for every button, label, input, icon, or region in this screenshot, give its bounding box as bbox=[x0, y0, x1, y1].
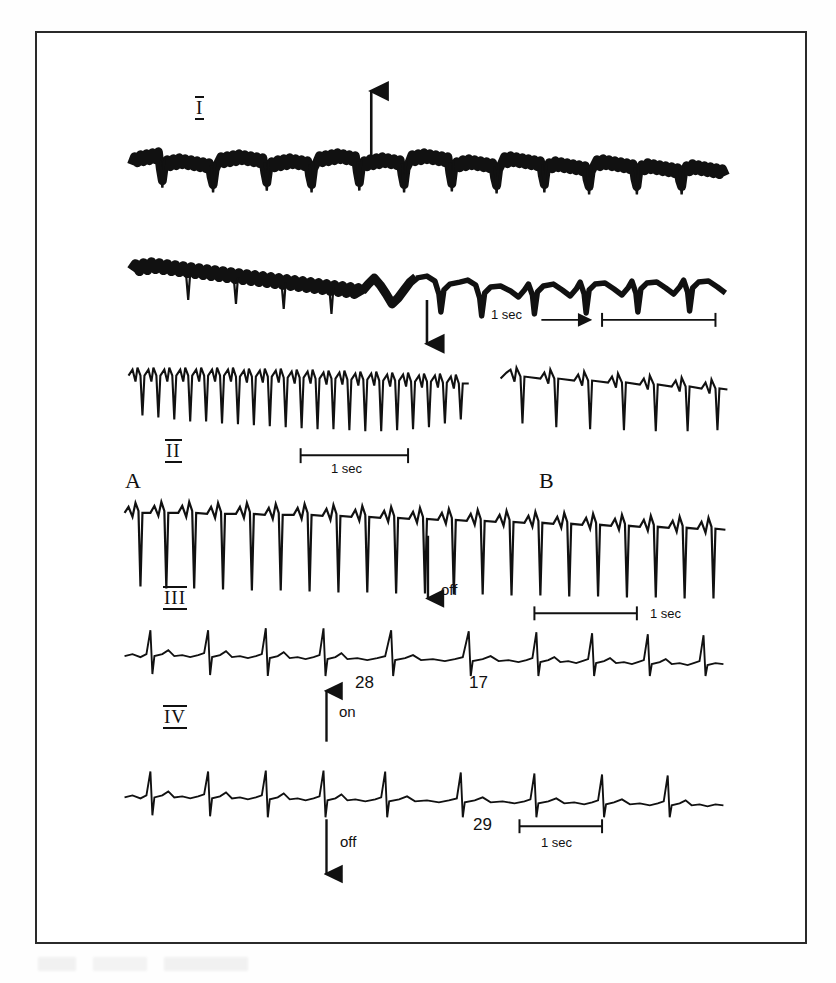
section-label-b: B bbox=[539, 468, 554, 494]
scale-bar-panel-III bbox=[534, 606, 636, 620]
trace-I-top bbox=[132, 152, 726, 195]
recording-traces-canvas bbox=[37, 33, 805, 942]
panel-label-II: II bbox=[165, 439, 182, 463]
interval-annotation-29: 29 bbox=[473, 815, 492, 835]
section-label-a: A bbox=[125, 468, 141, 494]
trace-II-B bbox=[501, 368, 728, 432]
panel-label-III: III bbox=[163, 586, 187, 610]
marker-label-on: on bbox=[339, 703, 356, 720]
panel-label-IV: IV bbox=[163, 705, 187, 729]
scale-bar-panel-IV bbox=[519, 819, 602, 833]
interval-annotation-17: 17 bbox=[469, 673, 488, 693]
caption-smudge bbox=[38, 957, 248, 971]
scale-label-panel-III: 1 sec bbox=[650, 606, 681, 621]
trace-III bbox=[125, 502, 726, 598]
marker-label-off-iii: off bbox=[441, 581, 457, 598]
scale-bar-panel-I bbox=[541, 313, 715, 327]
scale-label-panel-II: 1 sec bbox=[331, 461, 362, 476]
trace-I-bottom bbox=[132, 262, 726, 316]
interval-annotation-28: 28 bbox=[355, 673, 374, 693]
trace-IV-top bbox=[125, 628, 724, 676]
panel-label-I: I bbox=[195, 96, 204, 120]
figure-plate: I 1 sec II A B 1 sec III off 1 sec IV on… bbox=[35, 31, 807, 944]
scale-label-panel-I: 1 sec bbox=[491, 307, 522, 322]
scale-label-panel-IV: 1 sec bbox=[541, 835, 572, 850]
marker-label-off-iv: off bbox=[340, 833, 356, 850]
trace-II-A bbox=[129, 368, 469, 432]
trace-IV-bottom bbox=[125, 771, 724, 818]
